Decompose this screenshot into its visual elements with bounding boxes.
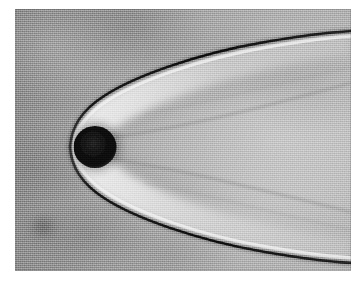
- figure-caption: [0, 0, 1, 1]
- photograph: Shadowgraph of a detached bow shock wave…: [15, 9, 351, 271]
- screenshot-root: Shadowgraph of a detached bow shock wave…: [0, 0, 358, 283]
- print-vignette: [15, 9, 351, 271]
